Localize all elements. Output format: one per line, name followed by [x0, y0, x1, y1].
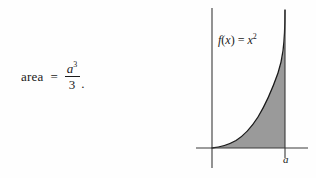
- fraction-numerator: a3: [64, 62, 81, 76]
- parabola-graph: f(x)=x2 a: [190, 0, 316, 178]
- area-formula-equals: =: [50, 70, 57, 83]
- fraction-denominator: 3: [66, 77, 79, 91]
- shaded-area-region: [212, 10, 285, 148]
- function-label: f(x)=x2: [218, 33, 257, 46]
- graph-svg: [190, 0, 316, 178]
- area-formula-label: area: [21, 70, 43, 83]
- formula-period: .: [81, 77, 84, 91]
- function-close-paren: ): [231, 33, 235, 47]
- numerator-exponent: 3: [73, 60, 77, 69]
- x-tick-label-a: a: [283, 154, 289, 165]
- area-formula: area = a3 3 .: [21, 62, 85, 91]
- function-equals: =: [238, 33, 245, 47]
- figure-canvas: area = a3 3 . f(x)=x2 a: [0, 0, 316, 178]
- function-exponent: 2: [253, 32, 257, 41]
- area-fraction: a3 3: [64, 62, 81, 91]
